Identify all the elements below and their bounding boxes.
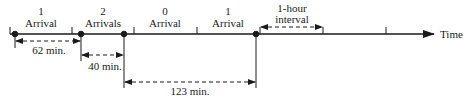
gap-label-62: 62 min. [24, 45, 74, 56]
segment-1-label: Arrival [16, 18, 66, 29]
segment-4-count: 1 [208, 6, 248, 17]
arrival-markers [12, 31, 259, 88]
segment-3-label: Arrival [140, 18, 190, 29]
segment-2-count: 2 [83, 6, 123, 17]
interval-label-line2: interval [266, 14, 318, 25]
segment-2-label: Arrivals [76, 18, 130, 29]
gap-label-123: 123 min. [160, 86, 220, 97]
time-axis-label: Time [440, 29, 468, 40]
segment-1-count: 1 [21, 6, 61, 17]
hour-ticks [10, 27, 386, 34]
segment-3-count: 0 [145, 6, 185, 17]
segment-4-label: Arrival [203, 18, 253, 29]
gap-label-40: 40 min. [80, 61, 130, 72]
